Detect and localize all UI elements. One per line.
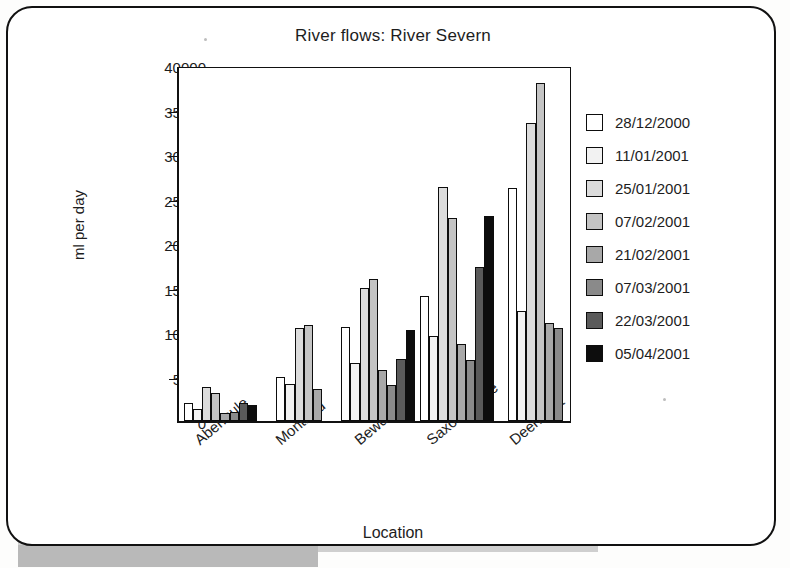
bar <box>484 216 493 421</box>
bar <box>341 327 350 421</box>
bar <box>193 409 202 421</box>
bar <box>508 188 517 421</box>
scanned-chart-page: River flows: River Severn ml per day 400… <box>0 0 790 568</box>
legend-swatch-icon <box>586 180 603 197</box>
bar <box>276 377 285 422</box>
bar <box>202 387 211 421</box>
legend-swatch-icon <box>586 213 603 230</box>
legend-item: 07/03/2001 <box>586 271 766 304</box>
legend-item: 28/12/2000 <box>586 106 766 139</box>
bar <box>313 389 322 421</box>
legend-label: 05/04/2001 <box>615 345 690 362</box>
legend-label: 25/01/2001 <box>615 180 690 197</box>
legend-item: 07/02/2001 <box>586 205 766 238</box>
bar-group <box>276 68 322 421</box>
legend-label: 07/02/2001 <box>615 213 690 230</box>
bar <box>248 405 257 421</box>
legend-item: 25/01/2001 <box>586 172 766 205</box>
legend-label: 28/12/2000 <box>615 114 690 131</box>
bar <box>554 328 563 421</box>
legend-swatch-icon <box>586 279 603 296</box>
legend-item: 21/02/2001 <box>586 238 766 271</box>
bar <box>220 413 229 421</box>
bar <box>438 187 447 421</box>
bar-group <box>341 68 415 421</box>
legend-item: 05/04/2001 <box>586 337 766 370</box>
bar <box>295 328 304 421</box>
bar-group <box>184 68 258 421</box>
legend-swatch-icon <box>586 147 603 164</box>
bar <box>285 384 294 421</box>
bar <box>369 279 378 421</box>
bar <box>475 267 484 421</box>
bar <box>448 218 457 421</box>
legend-swatch-icon <box>586 114 603 131</box>
legend-label: 21/02/2001 <box>615 246 690 263</box>
bar <box>304 325 313 421</box>
bar <box>211 393 220 421</box>
bar <box>378 370 387 421</box>
bar <box>396 359 405 421</box>
bar <box>517 311 526 421</box>
legend-swatch-icon <box>586 246 603 263</box>
bar <box>545 323 554 421</box>
bar <box>184 403 193 421</box>
bar <box>526 123 535 421</box>
bar <box>457 344 466 421</box>
x-axis-title: Location <box>8 524 778 542</box>
legend-label: 11/01/2001 <box>615 147 689 164</box>
bar <box>420 296 429 421</box>
bar <box>230 412 239 421</box>
bar <box>350 363 359 421</box>
bar-group <box>420 68 494 421</box>
plot-area <box>177 67 571 423</box>
chart-legend: 28/12/200011/01/200125/01/200107/02/2001… <box>586 106 766 370</box>
chart-frame: River flows: River Severn ml per day 400… <box>6 6 776 546</box>
bar <box>406 330 415 421</box>
bar <box>239 403 248 421</box>
y-axis-title: ml per day <box>70 190 87 260</box>
plot-area-wrapper: ml per day 40000350003000025000200001500… <box>8 8 778 548</box>
page-shadow <box>18 545 318 567</box>
legend-swatch-icon <box>586 312 603 329</box>
bar <box>387 385 396 421</box>
legend-label: 07/03/2001 <box>615 279 690 296</box>
legend-item: 11/01/2001 <box>586 139 766 172</box>
legend-swatch-icon <box>586 345 603 362</box>
bar <box>429 336 438 421</box>
bar-group <box>508 68 563 421</box>
bar <box>466 360 475 421</box>
legend-label: 22/03/2001 <box>615 312 690 329</box>
bar <box>536 83 545 421</box>
bar <box>360 288 369 421</box>
legend-item: 22/03/2001 <box>586 304 766 337</box>
